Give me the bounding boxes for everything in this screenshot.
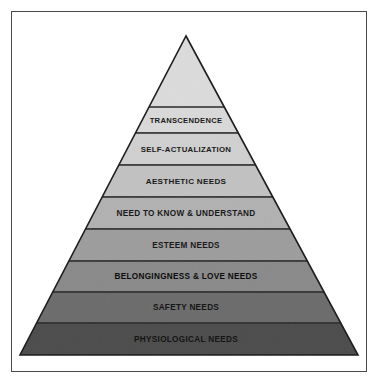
pyramid-label-esteem-needs: ESTEEM NEEDS — [152, 241, 220, 250]
pyramid-label-transcendence: TRANSCENDENCE — [150, 116, 223, 125]
pyramid-diagram: TRANSCENDENCE SELF-ACTUALIZATION AESTHET… — [0, 0, 377, 385]
pyramid-label-self-actualization: SELF-ACTUALIZATION — [141, 145, 232, 154]
pyramid-label-physiological-needs: PHYSIOLOGICAL NEEDS — [134, 335, 238, 344]
figure-root: TRANSCENDENCE SELF-ACTUALIZATION AESTHET… — [0, 0, 377, 385]
pyramid-label-need-to-know-and-understand: NEED TO KNOW & UNDERSTAND — [116, 209, 255, 218]
pyramid-label-aesthetic-needs: AESTHETIC NEEDS — [146, 177, 227, 186]
pyramid-label-safety-needs: SAFETY NEEDS — [153, 303, 219, 312]
pyramid-label-belongingness-and-love-needs: BELONGINGNESS & LOVE NEEDS — [115, 272, 258, 281]
